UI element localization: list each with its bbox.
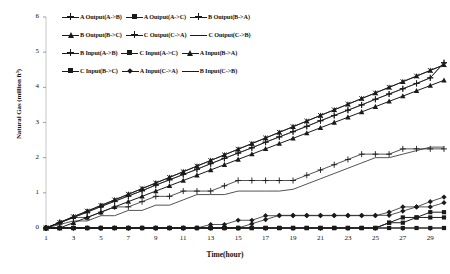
legend-marker-none-icon [182,66,199,76]
x-tick-label: 11 [175,234,191,242]
series-line [46,147,444,228]
legend-marker-plus-icon [62,48,79,58]
legend-marker-square-icon [126,12,143,22]
legend-row: C Input(B->C)A Input(C->A)B Input(C->B) [62,62,277,80]
legend-row: A Output(A->B)A Output(A->C)B Output(B->… [62,8,277,26]
legend-label: C Output(C->A) [144,31,187,39]
x-tick-label: 9 [148,234,164,242]
legend-marker-square-icon [62,66,79,76]
series-line [43,60,447,231]
y-axis-title: Natural Gas (million ft³) [15,49,23,159]
legend-marker-none-icon [190,30,207,40]
legend-entry[interactable]: B Input(A->B) [62,48,117,58]
y-tick-label: 4 [25,82,39,90]
legend-marker-cross-icon [190,12,207,22]
y-tick-label: 5 [25,47,39,55]
legend-entry[interactable]: C Input(B->C) [62,66,118,76]
series-line [43,146,447,231]
y-tick-label: 0 [25,223,39,231]
legend-entry[interactable]: C Output(C->B) [190,30,250,40]
x-tick-label: 21 [312,234,328,242]
x-tick-label: 27 [395,234,411,242]
legend-entry[interactable]: A Input(B->A) [182,48,237,58]
x-tick-label: 29 [422,234,438,242]
x-tick-label: 19 [285,234,301,242]
legend-marker-square-icon [121,48,138,58]
legend-marker-plus-icon [62,12,79,22]
x-tick-label: 7 [120,234,136,242]
legend-marker-tri-icon [62,30,79,40]
legend-entry[interactable]: A Output(A->B) [62,12,122,22]
legend-label: B Output(B->A) [208,13,250,21]
y-tick-label: 1 [25,188,39,196]
y-tick-label: 2 [25,153,39,161]
legend-label: A Input(B->A) [200,49,237,57]
x-tick-label: 23 [340,234,356,242]
legend-entry[interactable]: A Input(C->A) [122,66,178,76]
legend-entry[interactable]: B Output(B->A) [190,12,250,22]
chart-legend: A Output(A->B)A Output(A->C)B Output(B->… [62,8,277,80]
x-tick-label: 15 [230,234,246,242]
legend-label: C Input(B->C) [80,67,118,75]
x-tick-label: 13 [203,234,219,242]
x-tick-label: 25 [367,234,383,242]
legend-entry[interactable]: B Input(C->B) [182,66,237,76]
legend-label: B Input(A->B) [80,49,117,57]
chart-figure: Natural Gas (million ft³) Time(hour) A O… [0,0,450,274]
legend-row: B Input(A->B)C Input(A->C)A Input(B->A) [62,44,277,62]
legend-marker-plus-icon [126,30,143,40]
legend-entry[interactable]: B Output(B->C) [62,30,122,40]
series-line [43,62,446,230]
legend-label: C Input(A->C) [139,49,177,57]
legend-label: C Output(C->B) [208,31,250,39]
legend-label: A Output(A->C) [144,13,186,21]
x-tick-label: 5 [93,234,109,242]
legend-marker-diamond-icon [122,66,139,76]
legend-label: B Output(B->C) [80,31,122,39]
x-axis-title: Time(hour) [0,250,450,259]
legend-label: B Input(C->B) [200,67,237,75]
legend-label: A Output(A->B) [80,13,122,21]
y-tick-label: 3 [25,118,39,126]
legend-entry[interactable]: A Output(A->C) [126,12,186,22]
legend-row: B Output(B->C)C Output(C->A)C Output(C->… [62,26,277,44]
legend-entry[interactable]: C Output(C->A) [126,30,187,40]
x-tick-label: 3 [65,234,81,242]
x-tick-label: 1 [38,234,54,242]
legend-entry[interactable]: C Input(A->C) [121,48,177,58]
y-tick-label: 6 [25,12,39,20]
x-tick-label: 17 [258,234,274,242]
legend-marker-tri-icon [182,48,199,58]
legend-label: A Input(C->A) [140,67,178,75]
